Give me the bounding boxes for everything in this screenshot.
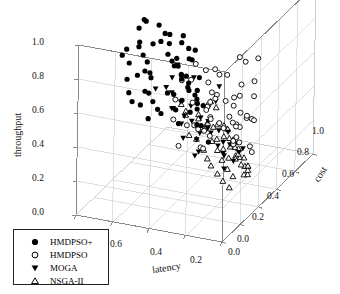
data-point xyxy=(169,75,175,80)
data-point xyxy=(247,144,252,149)
data-point xyxy=(169,58,174,63)
data-point xyxy=(237,55,242,60)
x-tick-0.4: 0.4 xyxy=(150,248,162,258)
z-tick-0.6: 0.6 xyxy=(282,170,294,180)
open-triangle-up-icon xyxy=(28,274,42,288)
data-point xyxy=(208,117,213,122)
data-point xyxy=(153,87,159,92)
data-point xyxy=(165,90,170,95)
data-point xyxy=(158,111,163,116)
data-point xyxy=(150,41,155,46)
data-point xyxy=(201,103,206,108)
data-point xyxy=(179,73,184,78)
data-point xyxy=(231,138,236,143)
data-point xyxy=(215,147,221,152)
data-point xyxy=(163,85,169,90)
data-point xyxy=(256,56,261,61)
data-point xyxy=(171,117,176,122)
chart-figure: 1.0 0.8 0.6 0.4 0.2 0.0 0.8 0.6 0.4 0.2 … xyxy=(0,0,340,294)
data-point xyxy=(230,174,236,179)
data-point xyxy=(142,17,147,22)
data-point xyxy=(124,47,129,52)
legend-item-nsga-ii[interactable]: NSGA-II xyxy=(14,274,110,288)
filled-circle-icon xyxy=(28,235,42,249)
data-point xyxy=(232,95,237,100)
data-point xyxy=(206,139,211,144)
data-point xyxy=(172,63,177,68)
data-point xyxy=(167,41,172,46)
data-point xyxy=(180,136,186,141)
data-point xyxy=(237,140,242,145)
data-point xyxy=(220,140,226,145)
y-tick-0.0: 0.0 xyxy=(32,208,44,218)
filled-triangle-down-icon xyxy=(28,261,42,275)
data-point xyxy=(181,33,186,38)
open-circle-icon xyxy=(28,248,42,262)
data-point xyxy=(227,114,232,119)
data-point xyxy=(176,121,181,126)
data-point xyxy=(176,143,181,148)
legend-label: NSGA-II xyxy=(50,275,84,287)
data-point xyxy=(220,146,226,151)
z-tick-0.0: 0.0 xyxy=(237,235,249,245)
data-point xyxy=(217,72,222,77)
data-point xyxy=(249,150,254,155)
data-point xyxy=(199,123,204,128)
data-point xyxy=(225,72,230,77)
data-point xyxy=(187,56,192,61)
data-point xyxy=(213,67,218,72)
data-point xyxy=(163,31,168,36)
data-point xyxy=(237,93,242,98)
legend-label: HMDPSO+ xyxy=(50,236,93,248)
data-point xyxy=(239,82,244,87)
data-point xyxy=(226,185,232,190)
legend-item-hmdpso-plus[interactable]: HMDPSO+ xyxy=(14,235,110,249)
data-point xyxy=(129,99,134,104)
data-point xyxy=(145,59,150,64)
data-point xyxy=(120,53,125,58)
data-point xyxy=(127,60,132,65)
legend-item-moga[interactable]: MOGA xyxy=(14,261,110,275)
data-point xyxy=(213,96,218,101)
data-point xyxy=(209,90,214,95)
data-point xyxy=(174,56,179,61)
z-tick-1.0: 1.0 xyxy=(312,127,324,137)
x-tick-0.6: 0.6 xyxy=(110,240,122,250)
data-point xyxy=(226,155,232,160)
data-point xyxy=(207,133,212,138)
data-point xyxy=(215,143,221,148)
data-point xyxy=(190,100,195,105)
data-point xyxy=(204,156,210,161)
legend-box: HMDPSO+ HMDPSO MOGA NSGA-II xyxy=(13,229,109,285)
data-point xyxy=(158,39,163,44)
data-point xyxy=(171,92,176,97)
data-point xyxy=(201,146,206,151)
data-point xyxy=(206,80,211,85)
data-point xyxy=(142,89,147,94)
data-point xyxy=(188,110,193,115)
data-point xyxy=(124,77,129,82)
data-point xyxy=(252,118,257,123)
data-point xyxy=(195,101,200,106)
z-tick-0.2: 0.2 xyxy=(252,213,264,223)
data-point xyxy=(155,107,160,112)
x-tick-0.2: 0.2 xyxy=(190,256,202,266)
data-point xyxy=(208,100,213,105)
legend-label: MOGA xyxy=(50,262,78,274)
data-point xyxy=(238,110,243,115)
data-point xyxy=(179,40,184,45)
data-point xyxy=(157,23,162,28)
y-tick-1.0: 1.0 xyxy=(32,38,44,48)
y-tick-0.6: 0.6 xyxy=(32,106,44,116)
data-point xyxy=(238,162,244,167)
data-point xyxy=(252,79,257,84)
legend-label: HMDPSO xyxy=(50,249,88,261)
legend-item-hmdpso[interactable]: HMDPSO xyxy=(14,248,110,262)
data-point xyxy=(204,107,209,112)
data-point xyxy=(126,90,131,95)
y-axis-label: throughput xyxy=(12,113,23,157)
data-point xyxy=(184,123,189,128)
data-point xyxy=(203,68,208,73)
data-point xyxy=(221,134,227,139)
data-point xyxy=(233,124,238,129)
